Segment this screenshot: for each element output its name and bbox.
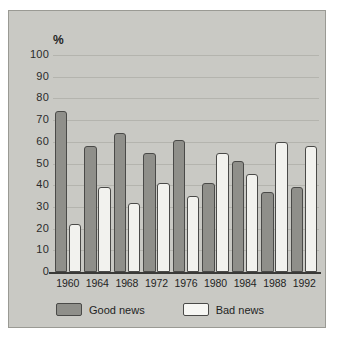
x-axis-tick-label-1976: 1976: [171, 277, 201, 289]
bar-bad-news-1992: [305, 146, 318, 272]
chart-legend: Good newsBad news: [56, 303, 264, 316]
bar-bad-news-1972: [157, 183, 170, 272]
y-axis-tick-label: 50: [23, 158, 49, 169]
bar-bad-news-1960: [69, 224, 82, 272]
bar-good-news-1964: [84, 146, 97, 272]
x-axis-tick-label-1988: 1988: [260, 277, 290, 289]
bar-good-news-1972: [143, 153, 156, 272]
y-axis-tick-label: 80: [23, 92, 49, 103]
bar-bad-news-1968: [128, 203, 141, 272]
bar-good-news-1976: [173, 140, 186, 272]
y-axis-tick-label: 100: [23, 49, 49, 60]
y-axis-tick-label: 70: [23, 114, 49, 125]
bar-good-news-1992: [291, 187, 304, 272]
bar-bad-news-1980: [216, 153, 229, 272]
y-axis-tick-label: 60: [23, 136, 49, 147]
bar-chart-figure: % 0102030405060708090100 196019641968197…: [0, 0, 338, 339]
x-axis-line: [49, 272, 321, 274]
gridline: [53, 98, 319, 99]
bar-good-news-1980: [202, 183, 215, 272]
y-axis-tick-label: 30: [23, 201, 49, 212]
gridline: [53, 120, 319, 121]
chart-plate: % 0102030405060708090100 196019641968197…: [8, 10, 326, 328]
y-axis-tick-label: 90: [23, 71, 49, 82]
x-axis-tick-label-1984: 1984: [230, 277, 260, 289]
bar-good-news-1960: [55, 111, 68, 272]
y-axis-tick-label: 20: [23, 223, 49, 234]
y-axis-tick-label: 0: [23, 266, 49, 277]
gridline: [53, 77, 319, 78]
bar-bad-news-1988: [275, 142, 288, 272]
y-axis-ticks: 0102030405060708090100: [23, 11, 49, 339]
legend-swatch-good-news: [56, 303, 82, 316]
x-axis-tick-label-1972: 1972: [141, 277, 171, 289]
bar-bad-news-1976: [187, 196, 200, 272]
bar-good-news-1968: [114, 133, 127, 272]
x-axis-tick-label-1992: 1992: [289, 277, 319, 289]
bar-bad-news-1964: [98, 187, 111, 272]
x-axis-tick-label-1960: 1960: [53, 277, 83, 289]
bar-bad-news-1984: [246, 174, 259, 272]
legend-entry-good-news: Good news: [56, 303, 145, 316]
plot-area: [53, 45, 319, 273]
legend-swatch-bad-news: [183, 303, 209, 316]
legend-entry-bad-news: Bad news: [183, 303, 264, 316]
bar-good-news-1988: [261, 192, 274, 272]
y-axis-tick-label: 10: [23, 244, 49, 255]
x-axis-tick-label-1968: 1968: [112, 277, 142, 289]
x-axis-tick-label-1980: 1980: [201, 277, 231, 289]
x-axis-tick-label-1964: 1964: [82, 277, 112, 289]
bar-good-news-1984: [232, 161, 245, 272]
legend-label: Bad news: [216, 304, 264, 316]
y-axis-tick-label: 40: [23, 179, 49, 190]
legend-label: Good news: [89, 304, 145, 316]
gridline: [53, 55, 319, 56]
